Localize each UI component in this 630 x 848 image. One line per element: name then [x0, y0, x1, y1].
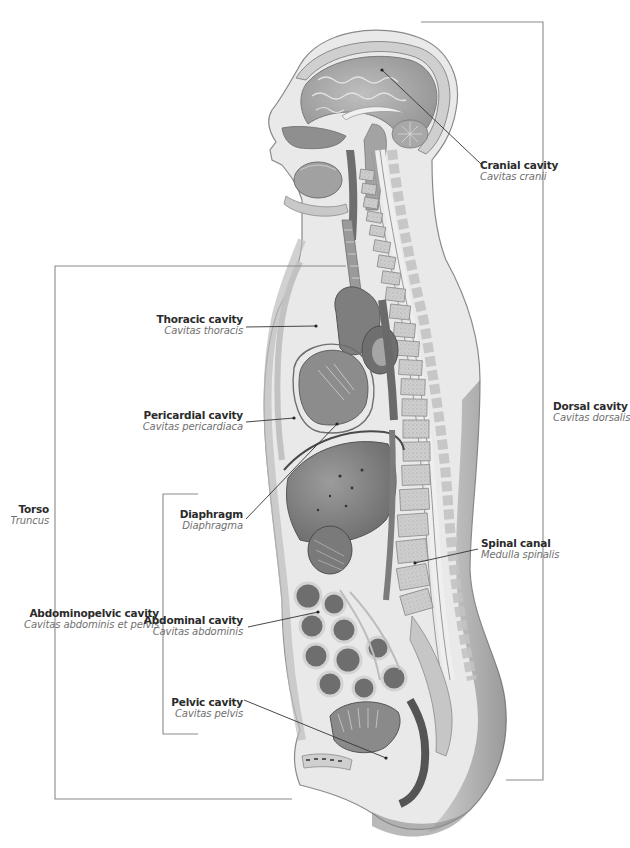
label-torso-la: Truncus — [11, 515, 49, 527]
label-torso-en: Torso — [11, 503, 49, 515]
label-spinal-la: Medulla spinalis — [481, 549, 559, 561]
label-abdominopelvic-en: Abdominopelvic cavity — [24, 607, 159, 619]
label-dorsal-la: Cavitas dorsalis — [553, 412, 630, 424]
label-abdominal-cavity: Abdominal cavity Cavitas abdominis — [144, 614, 243, 638]
label-dorsal-cavity: Dorsal cavity Cavitas dorsalis — [553, 400, 630, 424]
label-abdominal-la: Cavitas abdominis — [144, 626, 243, 638]
label-cranial-cavity: Cranial cavity Cavitas cranii — [480, 159, 558, 183]
label-pericardial-la: Cavitas pericardiaca — [143, 421, 243, 433]
label-thoracic-la: Cavitas thoracis — [157, 325, 243, 337]
label-dorsal-en: Dorsal cavity — [553, 400, 630, 412]
label-abdominal-en: Abdominal cavity — [144, 614, 243, 626]
label-diaphragm: Diaphragm Diaphragma — [180, 508, 243, 532]
label-diaphragm-la: Diaphragma — [180, 520, 243, 532]
label-pericardial-cavity: Pericardial cavity Cavitas pericardiaca — [143, 409, 243, 433]
label-abdominopelvic-cavity: Abdominopelvic cavity Cavitas abdominis … — [24, 607, 159, 631]
label-pelvic-en: Pelvic cavity — [171, 696, 243, 708]
label-pelvic-cavity: Pelvic cavity Cavitas pelvis — [171, 696, 243, 720]
label-thoracic-cavity: Thoracic cavity Cavitas thoracis — [157, 313, 243, 337]
label-cranial-en: Cranial cavity — [480, 159, 558, 171]
label-torso: Torso Truncus — [11, 503, 49, 527]
label-thoracic-en: Thoracic cavity — [157, 313, 243, 325]
label-spinal-canal: Spinal canal Medulla spinalis — [481, 537, 559, 561]
label-diaphragm-en: Diaphragm — [180, 508, 243, 520]
label-spinal-en: Spinal canal — [481, 537, 559, 549]
label-cranial-la: Cavitas cranii — [480, 171, 558, 183]
label-pelvic-la: Cavitas pelvis — [171, 708, 243, 720]
label-pericardial-en: Pericardial cavity — [143, 409, 243, 421]
label-abdominopelvic-la: Cavitas abdominis et pelvis — [24, 619, 159, 631]
